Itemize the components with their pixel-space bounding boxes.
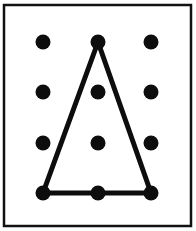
dot-r1c1 bbox=[36, 35, 51, 50]
dot-r3c3 bbox=[144, 136, 159, 151]
puzzle-figure-canvas bbox=[0, 0, 196, 231]
dot-r4c3 bbox=[144, 186, 159, 201]
dot-r1c3 bbox=[144, 35, 159, 50]
dot-r2c2 bbox=[91, 85, 106, 100]
dot-grid-triangle-figure bbox=[0, 0, 196, 231]
dot-r4c2 bbox=[91, 186, 106, 201]
dot-r3c2 bbox=[91, 136, 106, 151]
dot-r4c1 bbox=[36, 186, 51, 201]
dot-r2c1 bbox=[36, 85, 51, 100]
dot-r1c2 bbox=[91, 35, 106, 50]
dot-r2c3 bbox=[144, 85, 159, 100]
dot-r3c1 bbox=[36, 136, 51, 151]
